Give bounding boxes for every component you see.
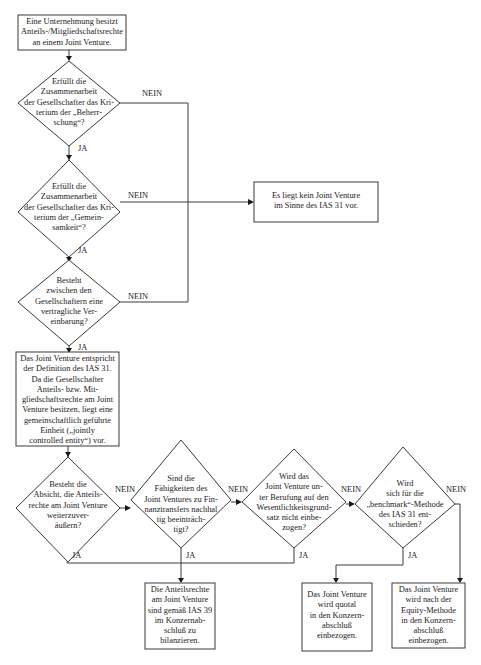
arrow-head-icon [236, 499, 242, 505]
result-no-jv-text: Es liegt kein Joint Venture im Sinne des… [254, 191, 378, 212]
d7-yes-label: JA [408, 551, 417, 560]
decision-d2-text: Erfüllt die Zusammenarbeit der Gesellsch… [18, 182, 120, 233]
result-quotal-text: Das Joint Venture wird quotal in den Kon… [302, 590, 372, 641]
decision-d3-text: Besteht zwischen den Gesellschaftern ein… [18, 276, 120, 327]
arrow-head-icon [65, 452, 71, 457]
arrow-head-icon [457, 578, 463, 583]
arrow-head-icon [349, 501, 355, 507]
definition-text: Das Joint Venture entspricht der Definit… [16, 354, 119, 447]
result-ias39-text: Die Anteilsrechte am Joint Venture sind … [145, 585, 215, 647]
decision-d7-text: Wird sich für die „benchmark“-Methode de… [356, 479, 454, 530]
d6-yes-label: JA [299, 551, 308, 560]
d3-no-label: NEIN [128, 292, 148, 301]
d4-yes-label: JA [72, 551, 81, 560]
arrow-head-icon [66, 155, 72, 160]
d1-no-label: NEIN [142, 89, 162, 98]
arrow-head-icon [66, 56, 72, 61]
start-text: Eine Unternehmung besitzt Anteils-/Mitgl… [18, 17, 126, 48]
result-equity-text: Das Joint Venture wird nach der Equity-M… [392, 585, 465, 647]
d7-no-label: NEIN [446, 485, 466, 494]
arrow-head-icon [178, 578, 184, 583]
decision-d6-text: Wird das Joint Venture un- ter Berufung … [244, 472, 344, 534]
d1-yes-label: JA [78, 144, 87, 153]
decision-d1-text: Erfüllt die Zusammenarbeit der Gesellsch… [18, 77, 120, 128]
decision-d4-text: Besteht die Absicht, die Anteils- rechte… [18, 480, 118, 531]
d2-no-label: NEIN [128, 191, 148, 200]
arrow-head-icon [333, 578, 339, 583]
d5-yes-label: JA [186, 551, 195, 560]
decision-d5-text: Sind die Fähigkeiten des Joint Ventures … [131, 474, 231, 536]
d2-yes-label: JA [78, 246, 87, 255]
d3-yes-label: JA [78, 343, 87, 352]
